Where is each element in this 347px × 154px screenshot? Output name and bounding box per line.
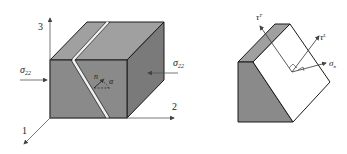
cube-with-crack bbox=[50, 22, 164, 118]
tau-t-label: τT bbox=[256, 12, 263, 22]
normal-label: n bbox=[94, 72, 98, 81]
wedge-element bbox=[238, 24, 330, 122]
sigma22-right-label: σ22 bbox=[173, 57, 184, 69]
axis-1-label: 1 bbox=[22, 125, 27, 136]
axis-3-label: 3 bbox=[38, 21, 43, 32]
axis-1 bbox=[24, 118, 50, 144]
axis-2-label: 2 bbox=[172, 101, 177, 112]
tau-l-label: τL bbox=[320, 32, 326, 42]
sigma-n-label: σn bbox=[329, 58, 336, 69]
diagram-canvas: 3 2 1 σ22 σ22 n α τT τL σn bbox=[0, 0, 347, 154]
sigma22-left-label: σ22 bbox=[20, 64, 31, 76]
